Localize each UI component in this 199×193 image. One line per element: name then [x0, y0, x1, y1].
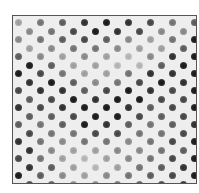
pore-dot — [147, 138, 154, 145]
pore-dot — [169, 155, 176, 162]
pore-dot — [158, 113, 165, 120]
pore-dot — [114, 45, 121, 52]
pore-dot — [114, 164, 121, 171]
pore-dot — [48, 181, 55, 185]
pore-dot — [26, 45, 33, 52]
pore-dot — [169, 104, 176, 111]
pore-dot — [103, 155, 110, 162]
pore-dot — [15, 70, 22, 77]
pore-dot — [191, 138, 197, 145]
pore-dot — [114, 130, 121, 137]
pore-dot — [37, 138, 44, 145]
pore-dot — [48, 28, 55, 35]
pore-dot — [92, 96, 99, 103]
pore-dot — [125, 138, 132, 145]
pore-dot — [26, 62, 33, 69]
pore-dot — [125, 155, 132, 162]
pore-dot — [59, 172, 66, 179]
pore-dot — [158, 96, 165, 103]
pore-dot — [92, 28, 99, 35]
pore-dot — [114, 28, 121, 35]
pore-dot — [26, 28, 33, 35]
pore-dot — [15, 19, 22, 26]
pore-dot — [70, 164, 77, 171]
pore-dot — [26, 96, 33, 103]
pore-dot — [191, 172, 197, 179]
pore-dot — [158, 28, 165, 35]
pore-dot — [48, 147, 55, 154]
pore-dot — [114, 147, 121, 154]
pore-dot — [48, 113, 55, 120]
pore-dot — [114, 113, 121, 120]
pore-dot — [103, 70, 110, 77]
pore-dot — [70, 79, 77, 86]
pore-dot — [191, 19, 197, 26]
pore-dot — [92, 164, 99, 171]
pore-dot — [103, 36, 110, 43]
pore-dot — [26, 147, 33, 154]
pore-dot — [136, 113, 143, 120]
pore-dot — [136, 79, 143, 86]
pore-dot — [169, 138, 176, 145]
pore-dot — [15, 172, 22, 179]
pore-dot — [147, 19, 154, 26]
pore-dot — [15, 138, 22, 145]
pore-dot — [81, 104, 88, 111]
pore-dot — [92, 130, 99, 137]
pore-dot — [158, 147, 165, 154]
pore-dot — [37, 172, 44, 179]
pore-dot — [81, 36, 88, 43]
pore-dot — [81, 155, 88, 162]
pore-dot — [180, 130, 187, 137]
pore-dot — [92, 181, 99, 185]
pore-dot — [125, 70, 132, 77]
pore-dot — [81, 87, 88, 94]
pore-dot — [81, 19, 88, 26]
pore-dot — [70, 113, 77, 120]
pore-dot — [125, 87, 132, 94]
pore-dot — [169, 121, 176, 128]
pore-dot — [136, 45, 143, 52]
pore-dot — [169, 70, 176, 77]
pore-dot — [158, 45, 165, 52]
pore-dot — [180, 147, 187, 154]
pore-dot — [81, 172, 88, 179]
pore-dot — [15, 87, 22, 94]
pore-dot — [15, 104, 22, 111]
pore-dot — [70, 45, 77, 52]
pore-dot — [37, 53, 44, 60]
pore-dot — [169, 53, 176, 60]
pore-dot — [191, 155, 197, 162]
pore-dot — [48, 164, 55, 171]
pore-dot — [59, 70, 66, 77]
pore-dot — [92, 45, 99, 52]
pore-dot — [81, 121, 88, 128]
pore-dot — [70, 130, 77, 137]
pore-dot — [26, 79, 33, 86]
pore-dot — [169, 36, 176, 43]
pore-dot — [37, 70, 44, 77]
pore-dot — [114, 79, 121, 86]
pore-dot — [180, 28, 187, 35]
pore-dot — [59, 36, 66, 43]
pore-dot — [125, 172, 132, 179]
pore-dot — [103, 19, 110, 26]
pore-dot — [70, 28, 77, 35]
pore-dot — [59, 104, 66, 111]
pore-dot — [15, 121, 22, 128]
pore-dot — [180, 96, 187, 103]
pore-dot — [15, 36, 22, 43]
pore-dot — [48, 79, 55, 86]
pore-dot — [48, 45, 55, 52]
pore-dot — [136, 147, 143, 154]
pore-dot — [180, 62, 187, 69]
pore-dot — [114, 96, 121, 103]
pore-dot — [26, 181, 33, 185]
pore-dot — [191, 53, 197, 60]
pore-dot — [147, 104, 154, 111]
pore-dot — [147, 87, 154, 94]
pore-dot — [37, 87, 44, 94]
pore-dot — [26, 130, 33, 137]
pore-dot — [59, 138, 66, 145]
pore-dot — [136, 28, 143, 35]
